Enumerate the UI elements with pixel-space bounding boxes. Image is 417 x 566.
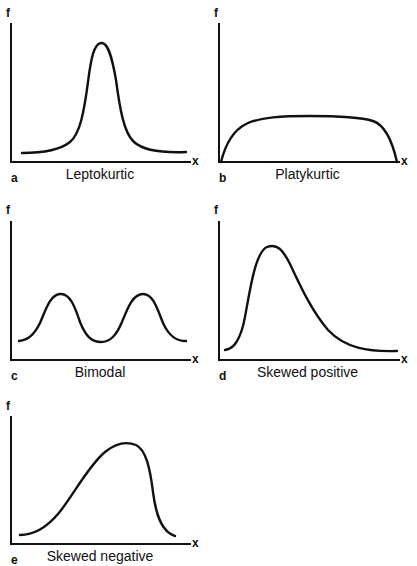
panel-b-x-axis-label: x <box>401 155 408 167</box>
panel-e-curve-skewed-negative <box>20 443 175 536</box>
panel-a-leptokurtic: f a x Leptokurtic <box>0 0 205 195</box>
panel-d-x-axis-label: x <box>401 353 408 365</box>
panel-e-plot <box>0 392 205 566</box>
panel-d-y-axis-label: f <box>214 204 218 216</box>
panel-c-y-axis-label: f <box>6 204 10 216</box>
panel-c-bimodal: f c x Bimodal <box>0 195 205 390</box>
panel-c-plot <box>0 195 205 390</box>
panel-b-caption: Platykurtic <box>205 167 410 181</box>
panel-d-curve-skewed-positive <box>225 246 397 351</box>
panel-d-skewed-positive: f d x Skewed positive <box>205 195 417 390</box>
panel-d-plot <box>205 195 417 390</box>
panel-d-caption: Skewed positive <box>205 365 410 379</box>
panel-a-curve-leptokurtic <box>22 43 186 153</box>
panel-b-curve-platykurtic <box>221 116 397 162</box>
panel-b-axes <box>219 24 399 162</box>
panel-c-caption: Bimodal <box>0 365 200 379</box>
panel-a-x-axis-label: x <box>192 155 199 167</box>
panel-c-axes <box>11 222 190 360</box>
panel-e-caption: Skewed negative <box>0 549 200 563</box>
panel-a-axes <box>11 24 190 162</box>
distribution-shapes-figure: f a x Leptokurtic f b x Platykurtic f c … <box>0 0 417 566</box>
panel-a-y-axis-label: f <box>6 7 10 19</box>
panel-e-y-axis-label: f <box>6 400 10 412</box>
panel-b-platykurtic: f b x Platykurtic <box>205 0 417 195</box>
panel-a-caption: Leptokurtic <box>0 167 200 181</box>
panel-c-curve-bimodal <box>19 294 186 342</box>
panel-e-x-axis-label: x <box>192 537 199 549</box>
panel-e-skewed-negative: f e x Skewed negative <box>0 392 205 566</box>
panel-d-axes <box>219 222 399 360</box>
panel-b-y-axis-label: f <box>214 7 218 19</box>
panel-c-x-axis-label: x <box>192 353 199 365</box>
